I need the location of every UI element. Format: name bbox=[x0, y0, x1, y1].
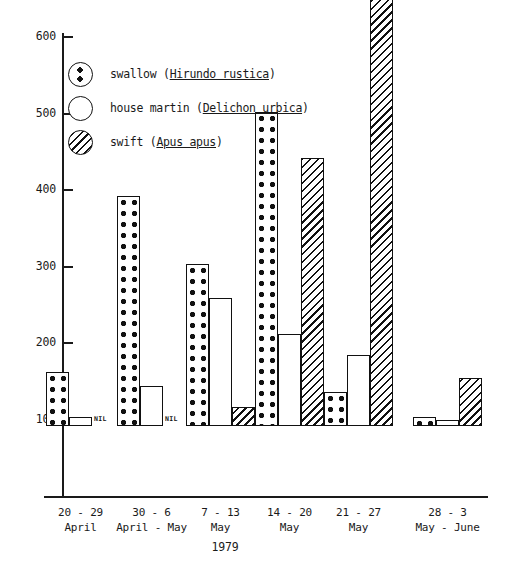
bar-martin-0 bbox=[69, 417, 92, 426]
legend: swallow (Hirundo rustica) house martin (… bbox=[68, 62, 398, 164]
bar-swift-3 bbox=[301, 158, 324, 426]
open-circle-icon bbox=[68, 96, 93, 121]
x-axis-label-month: May - June bbox=[388, 521, 508, 536]
x-axis-label-5: 28 - 3May - June bbox=[388, 506, 508, 535]
bar-chart: 600500400300200100 NILNIL 20 - 29April30… bbox=[0, 0, 515, 570]
legend-label-swift: swift (Apus apus) bbox=[110, 135, 223, 149]
nil-annotation: NIL bbox=[94, 415, 107, 423]
legend-label-swallow: swallow (Hirundo rustica) bbox=[110, 67, 276, 81]
bar-swift-2 bbox=[232, 407, 255, 426]
scientific-name-swallow: Hirundo rustica bbox=[170, 67, 269, 81]
nil-annotation: NIL bbox=[165, 415, 178, 423]
bar-swallow-0 bbox=[46, 372, 69, 426]
x-axis-label-range: 21 - 27 bbox=[336, 506, 381, 519]
legend-item-house-martin: house martin (Delichon urbica) bbox=[68, 96, 398, 130]
bar-swallow-5 bbox=[413, 417, 436, 426]
x-axis-label-range: 28 - 3 bbox=[428, 506, 467, 519]
bar-martin-3 bbox=[278, 334, 301, 426]
bar-martin-4 bbox=[347, 355, 370, 426]
dotted-circle-icon bbox=[68, 62, 93, 87]
legend-label-house-martin: house martin (Delichon urbica) bbox=[110, 101, 309, 115]
bar-martin-5 bbox=[436, 420, 459, 426]
bar-martin-1 bbox=[140, 386, 163, 426]
legend-item-swallow: swallow (Hirundo rustica) bbox=[68, 62, 398, 96]
bar-swallow-4 bbox=[324, 392, 347, 426]
legend-item-swift: swift (Apus apus) bbox=[68, 130, 398, 164]
scientific-name-swift: Apus apus bbox=[156, 135, 216, 149]
hatched-circle-icon bbox=[68, 130, 93, 155]
bar-martin-2 bbox=[209, 298, 232, 426]
scientific-name-house-martin: Delichon urbica bbox=[203, 101, 302, 115]
bar-swallow-2 bbox=[186, 264, 209, 426]
bar-swift-5 bbox=[459, 378, 482, 426]
bar-swallow-1 bbox=[117, 196, 140, 426]
x-axis-title: 1979 bbox=[0, 540, 450, 554]
